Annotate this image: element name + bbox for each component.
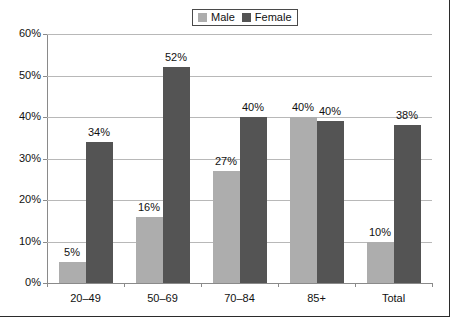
x-axis-tick: [355, 283, 356, 287]
bar-value-label: 40%: [319, 106, 341, 117]
bar-male-85+[interactable]: 40%: [290, 117, 317, 283]
x-axis-tick: [47, 283, 48, 287]
bar-chart-figure: Male Female 0%10%20%30%40%50%60% 5%34%20…: [0, 0, 450, 317]
bar-male-70–84[interactable]: 27%: [213, 171, 240, 283]
bar-female-Total[interactable]: 38%: [394, 125, 421, 283]
bar-group: 5%34%: [47, 34, 124, 283]
x-axis-tick: [201, 283, 202, 287]
y-axis-tick-label: 40%: [19, 111, 41, 122]
x-axis-tick: [124, 283, 125, 287]
bar-value-label: 40%: [292, 102, 314, 113]
legend-swatch-male-icon: [198, 13, 207, 22]
legend-label-male: Male: [211, 12, 235, 23]
bar-value-label: 34%: [88, 127, 110, 138]
x-axis-tick-label: Total: [355, 292, 432, 304]
x-axis-tick-label: 70–84: [201, 292, 278, 304]
bar-group: 16%52%: [124, 34, 201, 283]
bar-female-85+[interactable]: 40%: [317, 121, 344, 283]
bar-female-70–84[interactable]: 40%: [240, 117, 267, 283]
bar-group-bars: 27%40%: [201, 34, 278, 283]
bar-value-label: 10%: [369, 227, 391, 238]
bar-male-50–69[interactable]: 16%: [136, 217, 163, 283]
x-axis-tick-label: 85+: [278, 292, 355, 304]
x-axis-tick: [432, 283, 433, 287]
x-axis-tick-label: 20–49: [47, 292, 124, 304]
bar-group-bars: 16%52%: [124, 34, 201, 283]
legend-entry-female: Female: [242, 12, 292, 23]
bar-value-label: 27%: [215, 156, 237, 167]
bar-value-label: 52%: [165, 52, 187, 63]
y-axis-labels: 0%10%20%30%40%50%60%: [8, 34, 41, 284]
bar-group: 40%40%: [278, 34, 355, 283]
y-axis-tick-label: 10%: [19, 236, 41, 247]
legend-swatch-female-icon: [242, 13, 251, 22]
bar-value-label: 5%: [64, 247, 80, 258]
x-axis-tick-label: 50–69: [124, 292, 201, 304]
bar-group: 10%38%: [355, 34, 432, 283]
bar-group-bars: 10%38%: [355, 34, 432, 283]
chart-legend: Male Female: [192, 9, 298, 26]
y-axis-tick-label: 0%: [25, 277, 41, 288]
bar-group-bars: 40%40%: [278, 34, 355, 283]
y-axis-tick-label: 60%: [19, 28, 41, 39]
bar-male-Total[interactable]: 10%: [367, 242, 394, 284]
y-axis-tick-label: 50%: [19, 70, 41, 81]
x-axis-line: [47, 283, 433, 284]
plot-area: 5%34%20–4916%52%50–6927%40%70–8440%40%85…: [47, 34, 432, 283]
x-axis-tick: [278, 283, 279, 287]
legend-label-female: Female: [255, 12, 292, 23]
bar-value-label: 40%: [242, 102, 264, 113]
bar-female-20–49[interactable]: 34%: [86, 142, 113, 283]
y-axis-tick-label: 20%: [19, 194, 41, 205]
bar-group: 27%40%: [201, 34, 278, 283]
y-axis-tick-label: 30%: [19, 153, 41, 164]
legend-entry-male: Male: [198, 12, 235, 23]
bar-value-label: 16%: [138, 202, 160, 213]
bar-female-50–69[interactable]: 52%: [163, 67, 190, 283]
bar-male-20–49[interactable]: 5%: [59, 262, 86, 283]
bar-value-label: 38%: [396, 110, 418, 121]
bar-group-bars: 5%34%: [47, 34, 124, 283]
